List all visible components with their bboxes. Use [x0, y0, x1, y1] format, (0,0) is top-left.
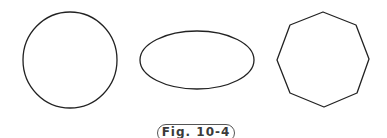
ellipse-shape: [140, 31, 254, 89]
figure-caption: Fig. 10-4: [157, 124, 235, 138]
circle-shape: [23, 12, 117, 108]
figure-canvas: [0, 0, 387, 138]
octagon-shape: [277, 12, 369, 107]
